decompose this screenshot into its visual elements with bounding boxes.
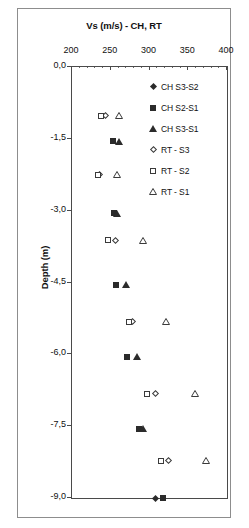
legend-item: RT - S3 — [148, 139, 222, 160]
chart-legend: CH S3-S2CH S2-S1CH S3-S1RT - S3RT - S2RT… — [148, 76, 222, 202]
y-tick-label: -9,0 — [36, 491, 66, 501]
x-tick-label: 350 — [170, 45, 204, 55]
y-tick-label: -1,5 — [36, 132, 66, 142]
x-tick-label: 250 — [93, 45, 127, 55]
chart-figure: Vs (m/s) - CH, RT 200250300350400 0,0-1,… — [0, 0, 249, 528]
legend-marker-icon — [148, 166, 158, 176]
legend-marker-icon — [148, 103, 158, 113]
legend-item-label: RT - S1 — [161, 187, 189, 197]
legend-item-label: CH S3-S1 — [161, 124, 198, 134]
y-tick-label: -3,0 — [36, 204, 66, 214]
legend-item: CH S3-S1 — [148, 118, 222, 139]
legend-item: RT - S2 — [148, 160, 222, 181]
x-tick-label: 200 — [54, 45, 88, 55]
y-tick-label: -7,5 — [36, 419, 66, 429]
x-tick-label: 300 — [132, 45, 166, 55]
legend-marker-icon — [148, 187, 158, 197]
legend-item-label: CH S3-S2 — [161, 82, 198, 92]
x-tick-label: 400 — [209, 45, 243, 55]
legend-marker-icon — [148, 82, 158, 92]
y-axis-title: Depth (m) — [39, 223, 50, 313]
y-tick-label: -6,0 — [36, 347, 66, 357]
legend-item-label: CH S2-S1 — [161, 103, 198, 113]
legend-item-label: RT - S2 — [161, 166, 189, 176]
legend-item: CH S3-S2 — [148, 76, 222, 97]
legend-item: CH S2-S1 — [148, 97, 222, 118]
legend-marker-icon — [148, 124, 158, 134]
y-tick-label: 0,0 — [36, 60, 66, 70]
chart-title: Vs (m/s) - CH, RT — [17, 20, 231, 31]
legend-item-label: RT - S3 — [161, 145, 189, 155]
legend-item: RT - S1 — [148, 181, 222, 202]
legend-marker-icon — [148, 145, 158, 155]
